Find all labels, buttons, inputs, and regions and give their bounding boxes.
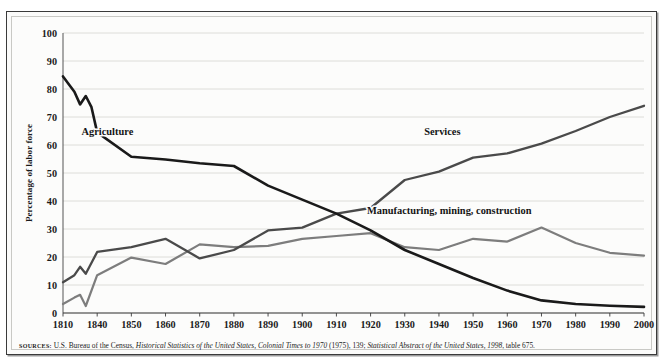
x-tick-label: 2000 bbox=[634, 319, 654, 330]
line-chart: 0102030405060708090100181018401850186018… bbox=[0, 0, 667, 363]
x-tick-label: 1980 bbox=[565, 319, 585, 330]
y-tick-label: 80 bbox=[47, 84, 57, 95]
source-prefix: SOURCES: bbox=[19, 343, 52, 349]
source-note: SOURCES: U.S. Bureau of the Census, Hist… bbox=[19, 341, 649, 351]
x-tick-label: 1870 bbox=[190, 319, 210, 330]
y-tick-label: 30 bbox=[47, 224, 57, 235]
y-tick-label: 90 bbox=[47, 56, 57, 67]
x-tick-label: 1860 bbox=[155, 319, 175, 330]
y-tick-label: 60 bbox=[47, 140, 57, 151]
x-tick-label: 1970 bbox=[531, 319, 551, 330]
x-tick-label: 1930 bbox=[395, 319, 415, 330]
x-tick-label: 1880 bbox=[224, 319, 244, 330]
source-text-3: , table 675. bbox=[502, 341, 535, 350]
x-tick-label: 1840 bbox=[87, 319, 107, 330]
source-text-2: (1975), 139; bbox=[327, 341, 367, 350]
x-tick-label: 1990 bbox=[600, 319, 620, 330]
x-axis-ticks: 1810184018501860187018801890190019101920… bbox=[53, 313, 654, 330]
x-tick-label: 1940 bbox=[429, 319, 449, 330]
x-tick-label: 1950 bbox=[463, 319, 483, 330]
series-label-agriculture: Agriculture bbox=[82, 126, 134, 137]
y-tick-label: 20 bbox=[47, 252, 57, 263]
x-tick-label: 1910 bbox=[326, 319, 346, 330]
series-label-services: Services bbox=[424, 126, 460, 137]
x-tick-label: 1850 bbox=[121, 319, 141, 330]
y-tick-label: 70 bbox=[47, 112, 57, 123]
x-tick-label: 1890 bbox=[258, 319, 278, 330]
y-tick-label: 10 bbox=[47, 280, 57, 291]
y-axis-ticks: 0102030405060708090100 bbox=[42, 28, 57, 319]
y-tick-label: 40 bbox=[47, 196, 57, 207]
x-tick-label: 1960 bbox=[497, 319, 517, 330]
x-tick-label: 1900 bbox=[292, 319, 312, 330]
figure-container: 0102030405060708090100181018401850186018… bbox=[0, 0, 667, 363]
y-axis-title: Percentage of labor force bbox=[24, 124, 34, 222]
y-tick-label: 50 bbox=[47, 168, 57, 179]
source-text-1: U.S. Bureau of the Census, bbox=[52, 341, 136, 350]
series-label-manufacturing: Manufacturing, mining, construction bbox=[367, 205, 532, 216]
x-tick-label: 1810 bbox=[53, 319, 73, 330]
source-italic-1: Historical Statistics of the United Stat… bbox=[136, 341, 327, 350]
chart-plot-area: 0102030405060708090100181018401850186018… bbox=[0, 0, 667, 363]
y-tick-label: 0 bbox=[52, 308, 57, 319]
source-italic-2: Statistical Abstract of the United State… bbox=[367, 341, 502, 350]
y-tick-label: 100 bbox=[42, 28, 57, 39]
x-tick-label: 1920 bbox=[360, 319, 380, 330]
